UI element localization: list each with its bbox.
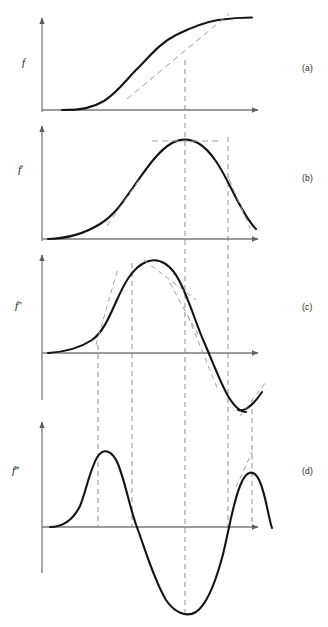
axis-label-f-double-prime: f″ (15, 299, 23, 311)
panel-tag-a: (a) (302, 63, 313, 73)
axis-label-f-double-prime-primes: ″ (18, 300, 23, 311)
gridline-group (98, 60, 252, 617)
curve-f-prime (48, 140, 256, 239)
tangent-a-center (127, 14, 229, 99)
axis-label-f-base: f (22, 56, 25, 68)
panel-a-axes (42, 18, 258, 112)
curve-f-double-prime-tail (238, 392, 262, 410)
tangent-d-right (236, 452, 252, 487)
figure-canvas (0, 0, 328, 627)
panel-b (42, 126, 258, 241)
panel-tag-c: (c) (302, 302, 313, 312)
derivative-figure: f f′ f″ f‴ (a) (b) (c) (d) (0, 0, 328, 627)
panel-tag-b: (b) (302, 173, 313, 183)
axis-label-f-prime: f′ (18, 163, 24, 175)
panel-c (42, 255, 266, 416)
axis-label-f-triple-prime-primes: ‴ (15, 465, 20, 476)
panel-d (42, 422, 272, 614)
curve-f (62, 18, 252, 111)
panel-d-axes (42, 422, 258, 573)
panel-b-axes (42, 126, 258, 241)
curve-f-double-prime-main (48, 260, 246, 412)
panel-c-axes (42, 255, 258, 400)
axis-label-f: f (22, 56, 25, 68)
axis-label-f-prime-primes: ′ (21, 164, 24, 175)
curve-f-triple-prime (50, 451, 272, 614)
panel-tag-d: (d) (302, 466, 313, 476)
tangent-c-peak (144, 260, 196, 300)
panel-a (42, 14, 258, 112)
axis-label-f-triple-prime: f‴ (12, 464, 20, 476)
